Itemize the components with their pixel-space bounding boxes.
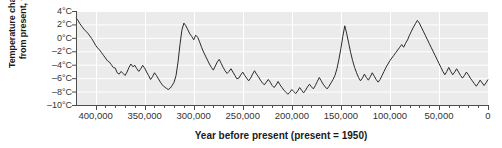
x-axis-tick-label: 0 [485,110,490,121]
x-axis-tick-label: 200,000 [275,110,309,121]
x-axis-tick-label: 250,000 [226,110,260,121]
x-axis-tick-label: 300,000 [177,110,211,121]
x-axis-tick-label: 400,000 [78,110,112,121]
x-axis-tick-label: 50,000 [424,110,453,121]
x-axis-tick-label: 100,000 [373,110,407,121]
x-axis-tick-label: 350,000 [127,110,161,121]
x-axis-tick-labels: 400,000350,000300,000250,000200,000150,0… [0,0,502,148]
temperature-chart: Temperature change from present, °C 4°C2… [0,0,502,148]
x-axis-tick-label: 150,000 [324,110,358,121]
x-axis-title: Year before present (present = 1950) [0,130,502,141]
